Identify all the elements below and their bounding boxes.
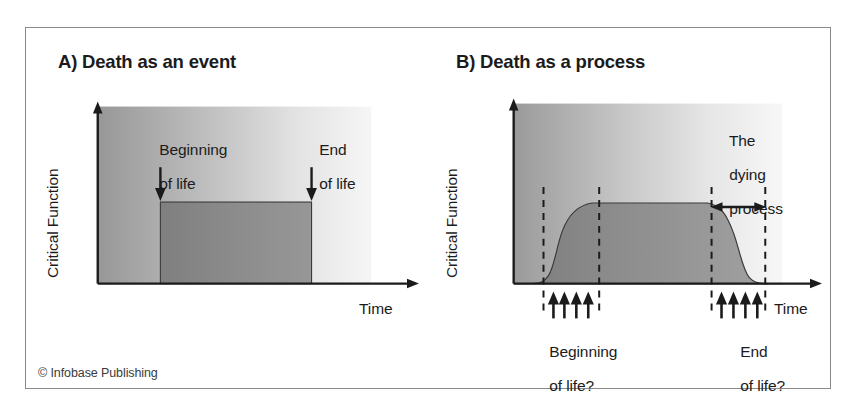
up-arrow-icon (752, 292, 763, 319)
panel-b-annotation-beginning-line1: Beginning (549, 343, 617, 360)
panel-a-life-region (160, 202, 311, 284)
panel-a-annotation-beginning-of-life: Beginning of life (134, 124, 227, 209)
up-arrow-icon (571, 292, 582, 319)
panel-b-annotation-end-line1: End (740, 343, 767, 360)
panel-b-annotation-end-of-life: End of life? (715, 326, 785, 411)
panel-b-annotation-dying-process: The dying process (704, 115, 783, 234)
up-arrow-icon (583, 292, 594, 319)
panel-b-annotation-dying-line3: process (729, 200, 783, 217)
up-arrow-icon (548, 292, 559, 319)
panel-a-x-axis-arrowhead (407, 279, 419, 289)
up-arrow-icon (740, 292, 751, 319)
panel-death-as-a-process: B) Death as a process Critical Function … (436, 28, 832, 388)
copyright-notice: © Infobase Publishing (38, 366, 158, 380)
panel-death-as-an-event: A) Death as an event Critical Function T… (26, 28, 436, 388)
panel-a-annotation-end-line1: End (319, 141, 346, 158)
panel-b-annotation-end-line2: of life? (740, 377, 785, 394)
panel-a-annotation-beginning-line2: of life (159, 175, 195, 192)
panel-a-annotation-beginning-line1: Beginning (159, 141, 227, 158)
panel-b-annotation-beginning-of-life: Beginning of life? (524, 326, 617, 411)
panel-b-x-axis-arrowhead (810, 279, 822, 289)
up-arrow-icon (559, 292, 570, 319)
panel-b-beginning-of-life-arrow-group (548, 292, 594, 319)
panel-b-annotation-dying-line2: dying (729, 166, 766, 183)
panel-a-annotation-end-of-life: End of life (294, 124, 356, 209)
up-arrow-icon (728, 292, 739, 319)
panel-b-annotation-dying-line1: The (729, 132, 755, 149)
up-arrow-icon (716, 292, 727, 319)
panel-a-plot (26, 28, 436, 388)
panel-a-annotation-end-line2: of life (319, 175, 355, 192)
figure-frame: A) Death as an event Critical Function T… (25, 27, 831, 389)
panel-b-annotation-beginning-line2: of life? (549, 377, 594, 394)
panel-b-end-of-life-arrow-group (716, 292, 763, 319)
